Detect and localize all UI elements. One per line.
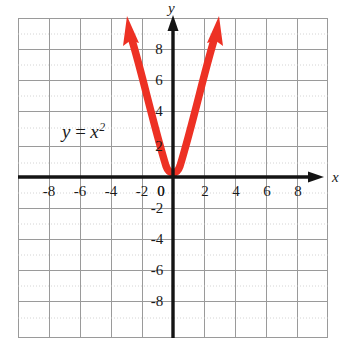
xtick-label: 8	[289, 184, 307, 199]
ytick-label: 4	[150, 104, 168, 119]
ytick-label: -8	[144, 294, 170, 309]
xtick-label: -4	[98, 184, 124, 199]
xtick-label: -6	[67, 184, 93, 199]
xtick-label: 2	[196, 184, 214, 199]
ytick-label: -6	[144, 263, 170, 278]
equation-annotation: y=x2	[62, 122, 106, 141]
equation-base: x	[90, 121, 99, 142]
ytick-label: -4	[144, 232, 170, 247]
ytick-label: 6	[150, 73, 168, 88]
ytick-label: 8	[150, 42, 168, 57]
equation-lhs: y	[62, 121, 71, 142]
coordinate-plane-svg	[0, 0, 346, 356]
xtick-label: 4	[227, 184, 245, 199]
ytick-label: -2	[144, 201, 170, 216]
y-axis-label: y	[168, 1, 175, 16]
xtick-label: 6	[258, 184, 276, 199]
graph-figure: -8 -6 -4 -2 0 2 4 6 8 8 6 4 2 0 -2 -4 -6…	[0, 0, 346, 356]
ytick-label: 2	[150, 139, 168, 154]
x-axis-label: x	[332, 170, 339, 185]
xtick-label: -8	[36, 184, 62, 199]
equation-exponent: 2	[99, 121, 105, 134]
ytick-label: 0	[152, 184, 170, 199]
equation-operator: =	[71, 121, 90, 142]
